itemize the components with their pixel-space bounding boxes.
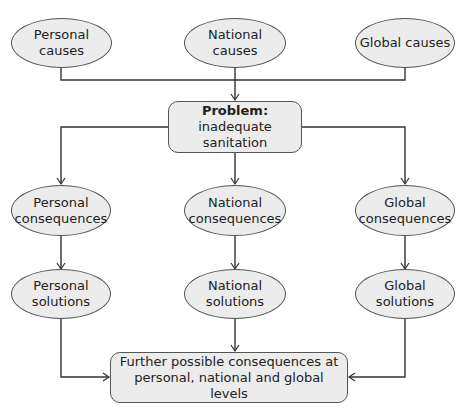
node-global-causes: Global causes bbox=[355, 18, 455, 68]
problem-body: inadequate sanitation bbox=[198, 119, 272, 150]
problem-prefix: Problem: bbox=[202, 103, 268, 118]
node-national-solutions: National solutions bbox=[184, 269, 286, 319]
node-further-consequences: Further possible consequences at persona… bbox=[110, 352, 348, 403]
node-label: Further possible consequences at persona… bbox=[115, 354, 343, 402]
problem-text: Problem: inadequate sanitation bbox=[173, 103, 297, 151]
node-national-causes: National causes bbox=[184, 18, 286, 68]
node-personal-solutions: Personal solutions bbox=[11, 269, 111, 319]
node-global-solutions: Global solutions bbox=[355, 269, 455, 319]
node-personal-causes: Personal causes bbox=[11, 18, 112, 68]
node-label: Personal causes bbox=[12, 27, 111, 59]
node-label: Personal consequences bbox=[12, 195, 110, 227]
node-label: National consequences bbox=[185, 195, 285, 227]
node-label: Global consequences bbox=[356, 195, 454, 227]
node-global-consequences: Global consequences bbox=[355, 185, 455, 236]
node-national-consequences: National consequences bbox=[184, 185, 286, 236]
node-label: National solutions bbox=[200, 278, 270, 310]
node-problem: Problem: inadequate sanitation bbox=[168, 101, 302, 153]
node-label: Global solutions bbox=[370, 278, 440, 310]
node-label: Personal solutions bbox=[26, 278, 96, 310]
node-personal-consequences: Personal consequences bbox=[11, 185, 111, 236]
node-label: Global causes bbox=[360, 35, 451, 51]
node-label: National causes bbox=[185, 27, 285, 59]
